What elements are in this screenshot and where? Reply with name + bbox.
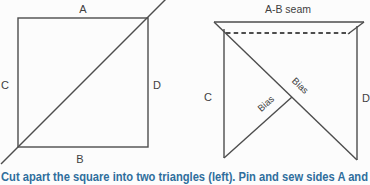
sewn-triangles-diagram: A-B seam Bias Bias C D [204,3,370,160]
diagonal-cut-line [1,0,166,164]
long-bias-edge-line [214,22,357,160]
square-side-b-label: B [76,153,83,165]
square-side-d-label: D [153,79,161,91]
square-side-c-label: C [1,79,9,91]
bias-label-upper: Bias [290,75,311,96]
figure-caption: Cut apart the square into two triangles … [1,169,368,184]
diagram-canvas: A B C D A-B seam Bias Bias C D Cut apart… [0,0,370,185]
right-corner-ear-line [348,22,364,34]
bias-label-lower: Bias [255,93,276,114]
sewing-instruction-figure: A B C D A-B seam Bias Bias C D Cut apart… [0,0,370,185]
square-diagram: A B C D [1,0,166,165]
triangles-side-c-label: C [204,91,212,103]
square-side-a-label: A [79,3,87,15]
ab-seam-label: A-B seam [265,3,311,15]
triangles-side-d-label: D [362,92,370,104]
